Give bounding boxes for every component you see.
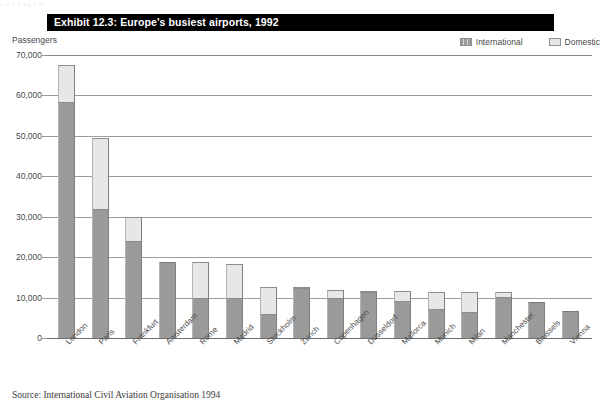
bar-segment-domestic[interactable] [394, 291, 411, 301]
legend-label-domestic: Domestic [565, 37, 600, 47]
bar-segment-domestic[interactable] [125, 217, 142, 241]
bar-segment-domestic[interactable] [226, 264, 243, 298]
legend-item-domestic: Domestic [549, 37, 600, 47]
bar-group[interactable] [125, 217, 142, 338]
bar-segment-domestic[interactable] [192, 262, 209, 297]
chart-legend: International Domestic [460, 37, 600, 47]
legend-swatch-international-icon [460, 38, 472, 46]
bar-segment-domestic[interactable] [327, 290, 344, 298]
y-tick-label: 20,000 [2, 252, 42, 262]
chart-plot-area: 010,00020,00030,00040,00050,00060,00070,… [47, 55, 592, 338]
bar-segment-domestic[interactable] [461, 292, 478, 311]
bar-segment-domestic[interactable] [58, 65, 75, 101]
bar-segment-international[interactable] [58, 102, 75, 339]
scan-artifact-strip: a a n p ng e n [0, 0, 602, 14]
x-axis-category-labels: LondonParisFrankfurtAmsterdamRomeMadridS… [47, 340, 592, 388]
y-tick-label: 50,000 [2, 131, 42, 141]
bar-group[interactable] [159, 262, 176, 338]
bar-segment-international[interactable] [159, 262, 176, 338]
bar-segment-domestic[interactable] [428, 292, 445, 309]
bar-group[interactable] [58, 65, 75, 338]
bar-segment-international[interactable] [92, 209, 109, 338]
bar-group[interactable] [192, 262, 209, 338]
bar-segment-domestic[interactable] [260, 287, 277, 313]
exhibit-title: Exhibit 12.3: Europe's busiest airports,… [47, 14, 554, 31]
bar-segment-domestic[interactable] [92, 138, 109, 209]
y-tick-label: 40,000 [2, 171, 42, 181]
legend-item-international: International [460, 37, 523, 47]
bars-layer [47, 55, 592, 338]
y-tick-label: 60,000 [2, 90, 42, 100]
y-tick-label: 0 [2, 333, 42, 343]
bar-group[interactable] [92, 138, 109, 338]
y-axis-unit-label: Passengers [12, 35, 57, 45]
legend-swatch-domestic-icon [549, 38, 561, 46]
source-note: Source: International Civil Aviation Org… [12, 390, 220, 400]
legend-label-international: International [476, 37, 523, 47]
y-tick-label: 30,000 [2, 212, 42, 222]
y-tick-label: 10,000 [2, 293, 42, 303]
bar-segment-international[interactable] [125, 241, 142, 338]
y-tick-label: 70,000 [2, 50, 42, 60]
bar-group[interactable] [226, 264, 243, 338]
